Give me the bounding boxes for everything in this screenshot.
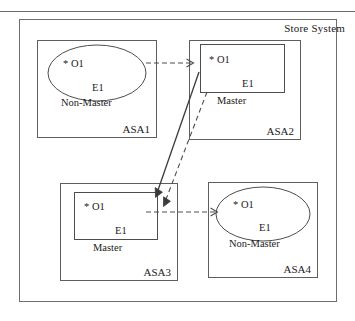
asa-box-label-asa4: ASA4	[283, 263, 311, 275]
role-label-asa4: Non-Master	[229, 238, 280, 249]
object-label-asa4: * O1	[233, 199, 254, 210]
asa-box-label-asa2: ASA2	[266, 125, 294, 137]
store-system-label: Store System	[284, 22, 345, 34]
entity-ellipse-asa4	[215, 186, 311, 242]
figure-canvas: Store System ASA1 * O1 E1 Non-Master ASA…	[0, 0, 355, 321]
object-label-asa3: * O1	[84, 201, 105, 212]
asa-box-label-asa3: ASA3	[143, 266, 171, 278]
role-label-asa1: Non-Master	[61, 97, 112, 108]
entity-label-asa4: E1	[259, 222, 271, 233]
entity-label-asa2: E1	[242, 78, 254, 89]
asa-box-label-asa1: ASA1	[122, 123, 150, 135]
object-label-asa2: * O1	[209, 54, 230, 65]
page-top-rule	[0, 11, 355, 12]
entity-label-asa3: E1	[115, 225, 127, 236]
entity-ellipse-asa1	[47, 44, 147, 102]
object-label-asa1: * O1	[63, 58, 84, 69]
role-label-asa2: Master	[217, 95, 246, 106]
entity-label-asa1: E1	[92, 82, 104, 93]
role-label-asa3: Master	[93, 242, 122, 253]
